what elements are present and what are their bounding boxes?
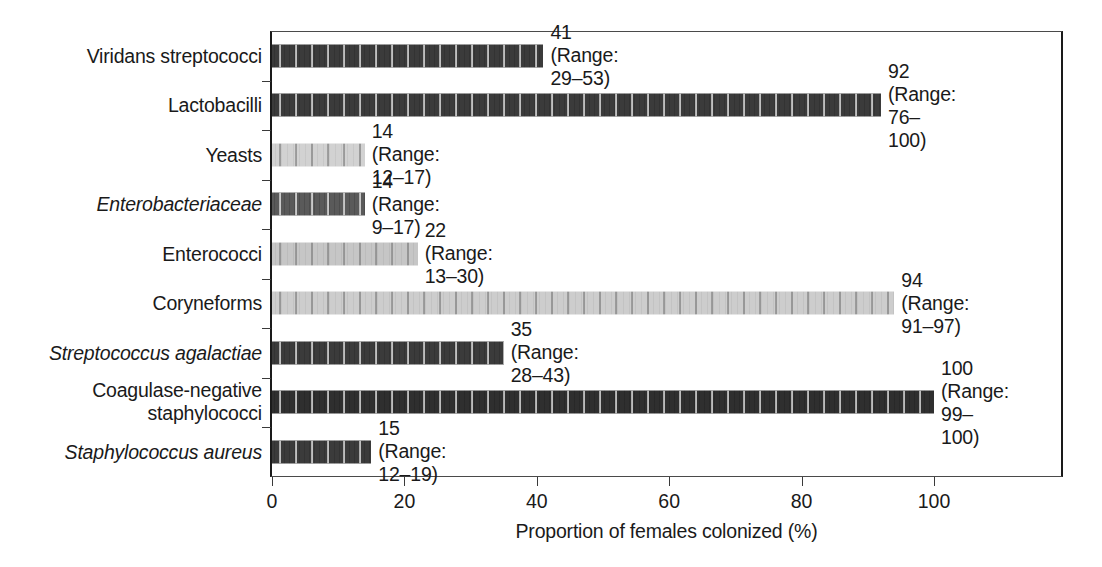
bar-3 <box>272 143 365 166</box>
bar-wrapper: 22 (Range: 13–30) <box>272 242 418 265</box>
bar-value-label-9: 15 (Range: 12–19) <box>378 417 446 486</box>
bar-1 <box>272 44 543 67</box>
bar-wrapper: 15 (Range: 12–19) <box>272 440 371 463</box>
bar-6 <box>272 292 894 315</box>
y-tick <box>262 130 271 131</box>
bar-wrapper: 100 (Range: 99–100) <box>272 391 934 414</box>
bar-wrapper: 94 (Range: 91–97) <box>272 292 894 315</box>
x-tick <box>934 477 935 486</box>
category-label-5: Enterococci <box>0 242 262 265</box>
x-tick-label-60: 60 <box>658 490 680 513</box>
y-tick <box>262 279 271 280</box>
bar-wrapper: 14 (Range: 9–17) <box>272 193 365 216</box>
bar-9 <box>272 440 371 463</box>
x-tick <box>669 477 670 486</box>
category-label-2: Lactobacilli <box>0 94 262 117</box>
category-label-8: Coagulase-negative staphylococci <box>0 379 262 425</box>
bar-wrapper: 35 (Range: 28–43) <box>272 341 504 364</box>
x-tick <box>272 477 273 486</box>
x-tick-label-40: 40 <box>526 490 548 513</box>
y-tick <box>262 81 271 82</box>
x-tick-label-0: 0 <box>267 490 278 513</box>
x-tick <box>404 477 405 486</box>
bar-row: Lactobacilli92 (Range: 76–100) <box>0 81 1102 131</box>
category-label-3: Yeasts <box>0 143 262 166</box>
x-tick <box>537 477 538 486</box>
bar-4 <box>272 193 365 216</box>
y-tick <box>262 378 271 379</box>
x-tick-label-20: 20 <box>394 490 416 513</box>
category-label-1: Viridans streptococci <box>0 44 262 67</box>
bar-row: Enterobacteriaceae14 (Range: 9–17) <box>0 180 1102 230</box>
y-tick <box>262 229 271 230</box>
y-tick <box>262 328 271 329</box>
category-label-9: Staphylococcus aureus <box>0 440 262 463</box>
bar-row: Yeasts14 (Range: 12–17) <box>0 130 1102 180</box>
bar-8 <box>272 391 934 414</box>
x-tick-label-80: 80 <box>791 490 813 513</box>
x-tick-label-100: 100 <box>918 490 951 513</box>
bar-wrapper: 14 (Range: 12–17) <box>272 143 365 166</box>
bar-wrapper: 92 (Range: 76–100) <box>272 94 881 117</box>
bar-row: Coagulase-negative staphylococci100 (Ran… <box>0 378 1102 428</box>
bar-7 <box>272 341 504 364</box>
bar-5 <box>272 242 418 265</box>
bar-wrapper: 41 (Range: 29–53) <box>272 44 543 67</box>
x-tick <box>802 477 803 486</box>
bar-row: Streptococcus agalactiae35 (Range: 28–43… <box>0 328 1102 378</box>
bar-2 <box>272 94 881 117</box>
chart-figure: Viridans streptococci41 (Range: 29–53)La… <box>0 0 1102 567</box>
y-tick <box>262 427 271 428</box>
category-label-7: Streptococcus agalactiae <box>0 341 262 364</box>
category-label-6: Coryneforms <box>0 292 262 315</box>
bar-row: Staphylococcus aureus15 (Range: 12–19) <box>0 427 1102 477</box>
category-label-4: Enterobacteriaceae <box>0 193 262 216</box>
y-tick <box>262 180 271 181</box>
x-axis-title: Proportion of females colonized (%) <box>270 520 1063 543</box>
